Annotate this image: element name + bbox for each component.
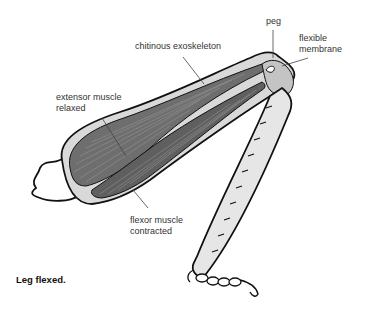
- label-peg: peg: [266, 16, 281, 27]
- label-flexor-muscle-line1: flexor muscle: [130, 215, 183, 226]
- label-chitinous-exoskeleton: chitinous exoskeleton: [135, 41, 221, 52]
- leg-flexed-diagram: peg flexible membrane chitinous exoskele…: [0, 0, 365, 313]
- tarsus: [196, 274, 241, 286]
- label-flexible-membrane-line1: flexible: [299, 33, 327, 44]
- label-flexor-muscle-line2: contracted: [130, 226, 172, 237]
- label-extensor-muscle-line2: relaxed: [56, 103, 86, 114]
- label-extensor-muscle-line1: extensor muscle: [56, 92, 122, 103]
- label-flexible-membrane-line2: membrane: [299, 44, 342, 55]
- tarsal-claw: [240, 280, 258, 296]
- diagram-caption: Leg flexed.: [16, 274, 66, 285]
